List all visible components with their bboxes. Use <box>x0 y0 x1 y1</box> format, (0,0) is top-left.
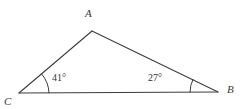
angle-arc-at-b <box>190 79 193 92</box>
angle-label-at-b: 27° <box>148 72 162 83</box>
edge-ca-line <box>19 31 92 93</box>
angle-measure-labels: 41° 27° <box>52 72 162 83</box>
angle-arc-at-c <box>42 74 49 93</box>
triangle-diagram: A B C 41° 27° <box>0 0 248 109</box>
triangle-edges <box>19 31 218 93</box>
vertex-label-b: B <box>227 83 234 95</box>
vertex-label-c: C <box>4 95 12 107</box>
angle-label-at-c: 41° <box>52 72 66 83</box>
vertex-label-a: A <box>84 7 92 19</box>
geometry-figure-canvas: A B C 41° 27° <box>0 0 248 109</box>
